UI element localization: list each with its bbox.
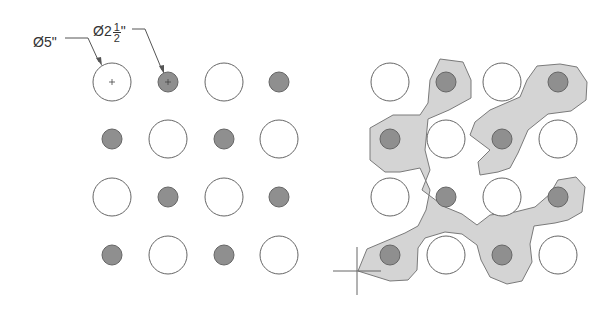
small-hole-circle: [158, 187, 178, 207]
small-hole-circle: [492, 245, 512, 265]
small-hole-circle: [436, 72, 456, 92]
small-hole-suffix: ": [121, 23, 126, 39]
large-hole-circle: [483, 178, 521, 216]
left-hole-grid: [93, 63, 298, 274]
arrow-head-large: [96, 57, 102, 66]
large-hole-circle: [205, 178, 243, 216]
large-hole-circle: [539, 120, 577, 158]
small-hole-circle: [214, 245, 234, 265]
small-hole-circle: [548, 187, 568, 207]
large-hole-dimension-label: Ø5": [33, 35, 57, 49]
large-hole-circle: [149, 120, 187, 158]
small-hole-circle: [380, 129, 400, 149]
small-hole-circle: [548, 72, 568, 92]
small-hole-prefix: Ø2: [93, 23, 112, 39]
large-hole-circle: [93, 178, 131, 216]
large-hole-circle: [205, 63, 243, 101]
leader-small-hole: [132, 29, 162, 70]
small-hole-dimension-label: Ø212": [93, 22, 126, 43]
fraction-denominator: 2: [114, 33, 120, 43]
large-hole-circle: [539, 236, 577, 274]
small-hole-circle: [436, 187, 456, 207]
small-hole-circle: [102, 129, 122, 149]
large-hole-circle: [260, 120, 298, 158]
small-hole-circle: [269, 72, 289, 92]
large-hole-circle: [260, 236, 298, 274]
small-hole-circle: [380, 245, 400, 265]
small-hole-circle: [102, 245, 122, 265]
fraction: 12: [113, 22, 121, 43]
large-hole-circle: [483, 63, 521, 101]
small-hole-circle: [214, 129, 234, 149]
large-hole-circle: [149, 236, 187, 274]
drawing-canvas: [0, 0, 609, 311]
small-hole-circle: [492, 129, 512, 149]
large-hole-circle: [427, 236, 465, 274]
large-hole-circle: [427, 120, 465, 158]
large-hole-circle: [371, 63, 409, 101]
small-hole-circle: [269, 187, 289, 207]
large-hole-circle: [371, 178, 409, 216]
